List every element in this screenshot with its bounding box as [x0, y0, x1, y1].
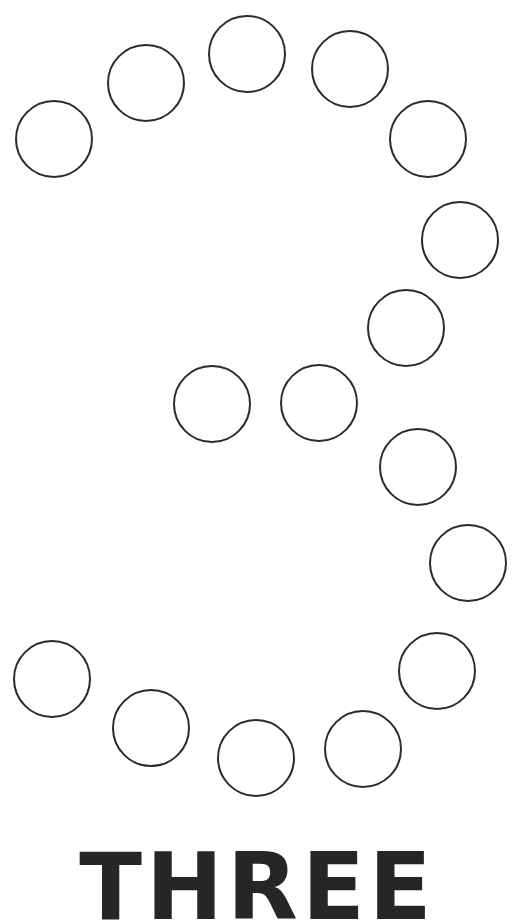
- dot-circle: [367, 289, 445, 367]
- dot-circle: [280, 364, 358, 442]
- dot-circle: [15, 100, 93, 178]
- dot-circle: [208, 15, 286, 93]
- number-word-label: THREE: [0, 842, 515, 924]
- dot-circle: [107, 44, 185, 122]
- dot-circle: [398, 632, 476, 710]
- dot-circle: [13, 640, 91, 718]
- dot-circle: [311, 30, 389, 108]
- dot-circle: [112, 689, 190, 767]
- dot-circle: [217, 719, 295, 797]
- dot-circle: [379, 428, 457, 506]
- dot-circle: [173, 365, 251, 443]
- dot-circle: [421, 201, 499, 279]
- dot-circle: [324, 710, 402, 788]
- dot-circle: [429, 524, 507, 602]
- dot-circle: [389, 100, 467, 178]
